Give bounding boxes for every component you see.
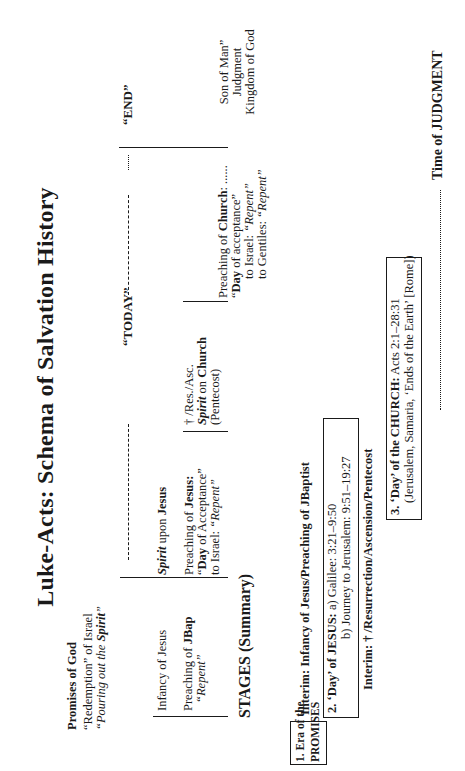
infancy-label: Infancy of Jesus	[156, 630, 169, 711]
jesus-day-rest: of Acceptance”	[195, 468, 209, 548]
redemption-quote: “Redemption”	[81, 658, 95, 730]
church-day-open: “	[229, 292, 243, 298]
church-preach-bold: Church	[216, 191, 230, 232]
pouring-spirit: Spirit	[94, 613, 108, 642]
rotated-document-page: Luke-Acts: Schema of Salvation History P…	[0, 0, 465, 771]
stage-3-box: 3. ‘Day’ of the CHURCH: Acts 2:1–28:31 (…	[386, 257, 422, 520]
stage-1-line1: 1. Era of the	[293, 724, 308, 762]
stage-2-bold: 2. ‘Day’ of JESUS:	[325, 613, 339, 713]
jesus-preach-bold: Jesus:	[182, 476, 196, 509]
pouring-prefix: “Pouring out the	[94, 641, 108, 730]
spirit-upon: upon	[155, 515, 169, 546]
end-kingdom-of-god: Kingdom of God	[244, 4, 257, 140]
church-gentiles-prefix: to Gentiles:	[255, 218, 269, 279]
time-of-judgment: Time of JUDGMENT	[431, 50, 444, 180]
today-dash-right	[128, 195, 129, 295]
stage-3-line1: 3. ‘Day’ of the CHURCH: Acts 2:1–28:31	[388, 262, 402, 515]
jbap-repent: “Repent”	[195, 654, 208, 703]
stages-heading: STAGES (Summary)	[238, 574, 251, 718]
jesus-israel-repent-word: “Repent”	[208, 479, 222, 528]
spirit-word: Spirit	[155, 547, 169, 576]
interim-1: Interim: Infancy of Jesus/Preaching of J…	[299, 462, 312, 715]
jesus-israel-repent: to Israel: “Repent”	[209, 479, 222, 575]
page-title: Luke-Acts: Schema of Salvation History	[32, 182, 58, 612]
jbap-prefix: Preaching of	[181, 644, 195, 711]
stage-2-line2: b) Journey to Jerusalem: 9:51–19:27	[339, 423, 353, 713]
stage-3-bold: 3. ‘Day’ of the CHURCH:	[388, 377, 402, 515]
jesus-day-bold: Day	[195, 548, 209, 570]
stage-3-acts: Acts 2:1–28:31	[388, 298, 402, 377]
res-spirit-word: Spirit	[195, 397, 209, 426]
pouring-suffix: ”	[94, 606, 108, 613]
stage-2-line1: 2. ‘Day’ of JESUS: a) Galilee: 3:21–9:50	[325, 423, 339, 713]
stage-2-galilee: a) Galilee: 3:21–9:50	[325, 504, 339, 613]
stage-3-line2: (Jerusalem, Samaria, ‘Ends of the Earth’…	[402, 262, 416, 515]
pentecost-label: (Pentecost)	[209, 369, 222, 425]
jesus-israel-prefix: to Israel:	[208, 528, 222, 575]
separator-end	[119, 147, 228, 148]
jesus-preach-prefix: Preaching of	[182, 508, 196, 575]
stage-1-line2: PROMISES	[308, 724, 323, 762]
jesus-bold: Jesus	[155, 487, 169, 515]
church-day-rest: of acceptance”	[229, 194, 243, 271]
promises-pouring: “Pouring out the Spirit”	[95, 606, 108, 730]
jbap-bold: JBap	[181, 617, 195, 645]
church-israel-repent-word: “Repent”	[242, 183, 256, 232]
jesus-day-open: “	[195, 569, 209, 575]
separator-church	[183, 301, 228, 302]
separator-infancy	[153, 716, 228, 717]
res-spirit-mid: on	[195, 378, 209, 397]
church-preach-prefix: Preaching of	[216, 231, 230, 298]
church-preach-suffix: : ......	[216, 165, 230, 190]
church-day-bold: Day	[229, 271, 243, 293]
today-trailing-dots	[128, 155, 129, 170]
church-gentiles-repent: to Gentiles: “Repent”	[256, 169, 269, 279]
separator-jesus	[120, 577, 228, 578]
judgment-dotted-line	[440, 190, 441, 410]
stage-2-box: 2. ‘Day’ of JESUS: a) Galilee: 3:21–9:50…	[323, 418, 359, 718]
promises-heading: Promises of God	[66, 642, 79, 730]
spirit-upon-jesus: Spirit upon Jesus	[156, 487, 169, 575]
today-dash-left	[128, 424, 129, 560]
res-church-bold: Church	[195, 337, 209, 378]
church-gentiles-repent-word: “Repent”	[255, 169, 269, 218]
end-label: “END”	[121, 85, 134, 125]
redemption-rest: of Israel	[81, 613, 95, 657]
separator-resurrection	[183, 431, 228, 432]
interim-2: Interim: † /Resurrection/Ascension/Pente…	[362, 449, 375, 690]
church-israel-prefix: to Israel:	[242, 232, 256, 279]
today-label: “TODAY”	[121, 287, 134, 346]
stage-1-box: 1. Era of the PROMISES	[290, 721, 327, 765]
